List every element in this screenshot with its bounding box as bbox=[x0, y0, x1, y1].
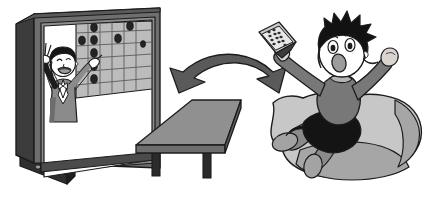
remote-control[interactable] bbox=[259, 22, 296, 58]
illustration-canvas bbox=[0, 0, 440, 198]
television[interactable] bbox=[16, 8, 160, 184]
chart-board bbox=[76, 21, 152, 98]
illustration-svg bbox=[0, 0, 440, 198]
boy-head bbox=[318, 11, 378, 77]
table-leg-right bbox=[203, 152, 211, 178]
tv-cabinet-side bbox=[16, 14, 34, 163]
table-leg-left bbox=[152, 150, 160, 176]
boy-with-remote[interactable] bbox=[259, 11, 421, 180]
table-edge bbox=[136, 145, 225, 153]
bidirectional-arrow bbox=[170, 54, 286, 93]
